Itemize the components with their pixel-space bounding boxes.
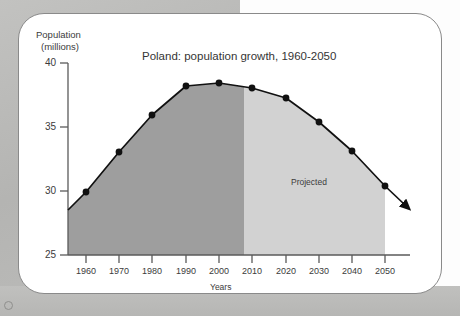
x-tick-label-2050: 2050 [368, 266, 402, 276]
x-tick-label-2030: 2030 [302, 266, 336, 276]
x-axis-title: Years [210, 282, 231, 292]
data-point [216, 80, 223, 87]
x-tick-label-2040: 2040 [335, 266, 369, 276]
x-tick-label-1960: 1960 [69, 266, 103, 276]
x-tick-label-2000: 2000 [202, 266, 236, 276]
data-point [149, 112, 156, 119]
chart-title: Poland: population growth, 1960-2050 [142, 50, 336, 62]
x-tick-label-1970: 1970 [102, 266, 136, 276]
data-point [283, 95, 290, 102]
y-tick-label-30: 30 [36, 185, 56, 196]
y-axis-title-line2: (millions) [41, 41, 79, 52]
data-point [249, 85, 256, 92]
y-tick-label-35: 35 [36, 121, 56, 132]
data-point [116, 149, 123, 156]
x-tick-label-1980: 1980 [135, 266, 169, 276]
y-tick-label-25: 25 [36, 249, 56, 260]
data-point [382, 183, 389, 190]
y-axis-title-line1: Population [36, 29, 81, 40]
y-tick-label-40: 40 [36, 57, 56, 68]
data-point [183, 83, 190, 90]
x-tick-label-2010: 2010 [235, 266, 269, 276]
data-point [316, 119, 323, 126]
data-point [349, 148, 356, 155]
trend-arrow [385, 186, 404, 204]
x-tick-label-1990: 1990 [169, 266, 203, 276]
x-tick-label-2020: 2020 [269, 266, 303, 276]
figure-page: Population (millions) Poland: population… [0, 0, 460, 316]
data-point [83, 189, 90, 196]
projected-annotation: Projected [291, 177, 327, 187]
